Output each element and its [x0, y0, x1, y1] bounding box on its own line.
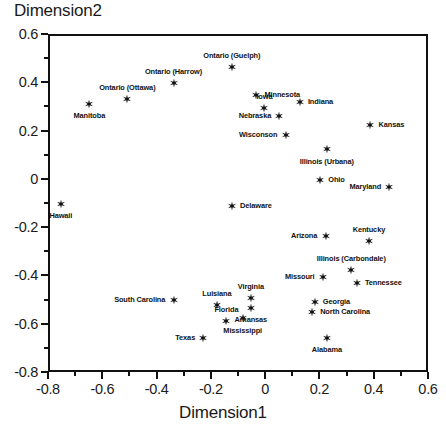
data-point-marker — [85, 100, 94, 109]
data-point-label: Illinois (Urbana) — [300, 158, 354, 165]
data-point-marker — [199, 333, 208, 342]
data-point-marker — [169, 79, 178, 88]
data-point-label: South Carolina — [114, 297, 165, 304]
x-axis-tick-label: 0.4 — [364, 381, 383, 397]
x-axis-tick — [291, 372, 293, 376]
x-axis-tick — [74, 372, 76, 376]
data-point-label: Georgia — [323, 298, 350, 305]
data-point-label: Alabama — [312, 346, 342, 353]
data-point-label: Missouri — [285, 274, 315, 281]
x-axis-tick — [237, 372, 239, 376]
y-axis-tick — [41, 81, 48, 83]
x-axis-tick-label: 0.6 — [418, 381, 437, 397]
y-axis-tick — [44, 299, 48, 301]
data-point-label: Florida — [214, 305, 238, 312]
data-point-label: Texas — [175, 334, 195, 341]
data-point-label: Kansas — [378, 122, 404, 129]
data-point-label: Ontario (Harrow) — [145, 67, 202, 74]
data-point-label: Ontario (Ottawa) — [99, 83, 155, 90]
y-axis-tick-label: 0 — [30, 171, 38, 187]
data-point-label: Delaware — [240, 203, 272, 210]
y-axis-tick-label: -0.2 — [14, 219, 38, 235]
x-axis-tick — [400, 372, 402, 376]
plot-inner: ManitobaOntario (Ottawa)Ontario (Harrow)… — [50, 36, 426, 370]
y-axis-title: Dimension2 — [14, 1, 102, 21]
data-point-marker — [169, 296, 178, 305]
y-axis-tick — [44, 347, 48, 349]
x-axis-tick — [156, 372, 158, 379]
data-point-label: Arkansas — [235, 316, 267, 323]
y-axis-tick — [44, 250, 48, 252]
y-axis-tick — [41, 130, 48, 132]
data-point-marker — [227, 63, 236, 72]
y-axis-tick — [41, 178, 48, 180]
data-point-marker — [352, 279, 361, 288]
y-axis-tick — [41, 33, 48, 35]
data-point-marker — [222, 316, 231, 325]
y-axis-tick-label: -0.4 — [14, 267, 38, 283]
data-point-label: Arizona — [291, 233, 317, 240]
data-point-label: Kentucky — [353, 226, 385, 233]
y-axis-tick — [41, 323, 48, 325]
data-point-marker — [281, 130, 290, 139]
data-point-label: Ohio — [328, 176, 344, 183]
x-axis-tick-label: -0.8 — [36, 381, 60, 397]
x-axis-tick-label: 0 — [261, 381, 269, 397]
data-point-marker — [321, 232, 330, 241]
y-axis-tick — [44, 202, 48, 204]
x-axis-tick — [128, 372, 130, 376]
data-point-marker — [318, 273, 327, 282]
x-axis-tick — [47, 372, 49, 379]
data-point-label: Indiana — [308, 99, 333, 106]
plot-area: ManitobaOntario (Ottawa)Ontario (Harrow)… — [48, 34, 428, 372]
data-point-marker — [347, 266, 356, 275]
x-axis-tick-label: 0.2 — [310, 381, 329, 397]
y-axis-tick — [44, 154, 48, 156]
y-axis-tick-label: -0.8 — [14, 364, 38, 380]
data-point-label: Illinois (Carbondale) — [317, 255, 386, 262]
data-point-label: Wisconson — [239, 131, 277, 138]
data-point-marker — [123, 94, 132, 103]
y-axis-tick — [41, 371, 48, 373]
x-axis-tick-label: -0.2 — [199, 381, 223, 397]
data-point-marker — [275, 111, 284, 120]
y-axis-tick — [44, 57, 48, 59]
x-axis-tick — [427, 372, 429, 379]
data-point-marker — [307, 308, 316, 317]
data-point-marker — [246, 303, 255, 312]
x-axis-tick — [101, 372, 103, 379]
data-point-marker — [310, 297, 319, 306]
data-point-label: Mississippi — [223, 327, 262, 334]
x-axis-tick — [210, 372, 212, 379]
x-axis-tick — [346, 372, 348, 376]
data-point-label: Virginia — [238, 282, 264, 289]
y-axis-tick-label: 0.6 — [19, 26, 38, 42]
data-point-marker — [56, 199, 65, 208]
data-point-label: Manitoba — [74, 112, 106, 119]
data-point-marker — [227, 202, 236, 211]
x-axis-tick — [264, 372, 266, 379]
data-point-label: Nebraska — [239, 112, 271, 119]
data-point-marker — [246, 293, 255, 302]
x-axis-tick — [183, 372, 185, 376]
y-axis-tick-label: -0.6 — [14, 316, 38, 332]
scatter-plot-figure: Dimension2 ManitobaOntario (Ottawa)Ontar… — [0, 0, 446, 431]
data-point-marker — [316, 175, 325, 184]
y-axis-tick — [44, 105, 48, 107]
y-axis-tick — [41, 274, 48, 276]
data-point-label: Tennessee — [365, 280, 402, 287]
data-point-label: Hawaii — [49, 212, 72, 219]
data-point-label: Iowa — [256, 93, 272, 100]
x-axis-tick — [318, 372, 320, 379]
y-axis-tick-label: 0.2 — [19, 123, 38, 139]
y-axis-tick — [41, 226, 48, 228]
data-point-marker — [364, 237, 373, 246]
data-point-label: North Carolina — [320, 309, 370, 316]
x-axis-tick — [373, 372, 375, 379]
data-point-label: Maryland — [349, 183, 381, 190]
x-axis-tick-label: -0.6 — [90, 381, 114, 397]
data-point-label: Ontario (Guelph) — [203, 52, 260, 59]
x-axis-title: Dimension1 — [0, 403, 446, 423]
data-point-marker — [366, 121, 375, 130]
data-point-label: Luisiana — [202, 290, 231, 297]
